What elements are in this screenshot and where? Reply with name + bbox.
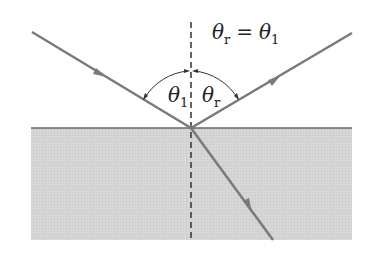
arc-arrowhead-icon [192, 69, 198, 73]
angle-label-incident: θ1 [168, 85, 188, 109]
incident-ray [32, 32, 191, 128]
reflected-arrow-icon [268, 76, 280, 86]
arc-arrowhead-icon [184, 69, 190, 73]
reflection-diagram [0, 0, 377, 253]
equation-label: θr=θ1 [212, 22, 279, 46]
angle-label-reflected: θr [202, 85, 220, 109]
